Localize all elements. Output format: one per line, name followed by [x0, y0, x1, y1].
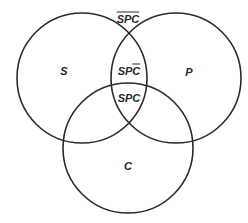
venn-diagram: SPC S P SPC SPC C: [0, 0, 248, 223]
label-part: C: [132, 65, 140, 77]
label-c: C: [124, 161, 132, 172]
label-part: P: [124, 13, 131, 25]
label-part: P: [125, 92, 132, 104]
label-spc: SPC: [118, 93, 141, 104]
label-outside-region: SPC: [117, 14, 140, 25]
label-sp-not-c: SPC: [118, 66, 141, 77]
circle-p: [111, 13, 241, 143]
label-part: P: [125, 65, 132, 77]
circle-s: [17, 13, 147, 143]
label-p: P: [185, 67, 192, 78]
label-part: C: [132, 92, 140, 104]
venn-circles: [0, 0, 248, 223]
label-s: S: [60, 66, 67, 77]
label-part: C: [131, 13, 139, 25]
